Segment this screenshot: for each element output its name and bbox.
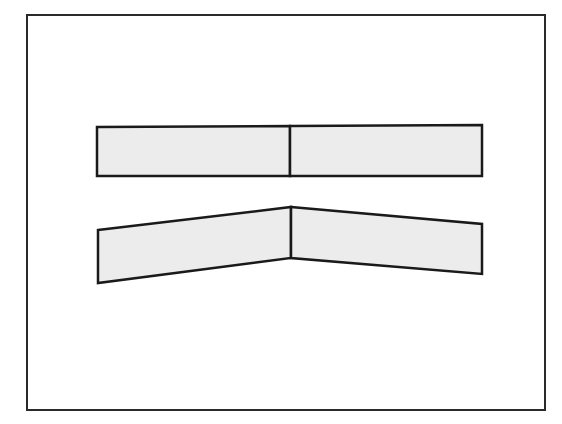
bent-strip bbox=[98, 207, 482, 283]
flat-strip-left-panel bbox=[97, 126, 290, 176]
diagram-canvas bbox=[0, 0, 562, 424]
flat-strip bbox=[97, 125, 482, 176]
flat-strip-right-panel bbox=[290, 125, 482, 176]
bent-strip-left-panel bbox=[98, 207, 291, 283]
bent-strip-right-panel bbox=[291, 207, 482, 274]
